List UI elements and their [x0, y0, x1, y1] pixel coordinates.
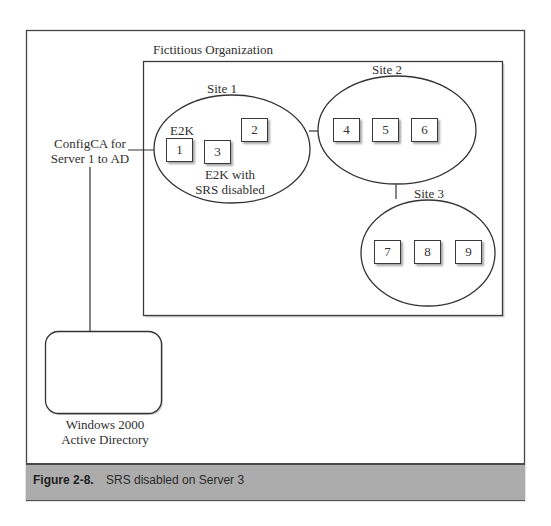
configca-label-line2: Server 1 to AD	[50, 151, 130, 166]
site3-label: Site 3	[414, 186, 444, 201]
server3-annotation-line1: E2K with	[190, 167, 270, 182]
ad-label-line2: Active Directory	[50, 432, 160, 447]
figure-caption: SRS disabled on Server 3	[106, 473, 244, 487]
server-4: 4	[333, 118, 360, 142]
figure-caption-band: Figure 2-8. SRS disabled on Server 3	[26, 463, 525, 501]
server1-annotation: E2K	[170, 123, 194, 138]
active-directory-box	[46, 332, 162, 414]
server-6: 6	[411, 118, 438, 142]
server-8: 8	[414, 240, 441, 264]
organization-label: Fictitious Organization	[153, 42, 273, 57]
server-2: 2	[241, 118, 268, 142]
server-3: 3	[204, 140, 231, 164]
figure-number: Figure 2-8.	[33, 473, 94, 487]
server-7: 7	[374, 240, 401, 264]
site1-label: Site 1	[207, 81, 237, 96]
configca-label-line1: ConfigCA for	[50, 136, 130, 151]
site2-label: Site 2	[372, 62, 402, 77]
server-9: 9	[455, 240, 482, 264]
server3-annotation-line2: SRS disabled	[185, 182, 275, 197]
server-5: 5	[372, 118, 399, 142]
server-1: 1	[166, 138, 193, 162]
ad-label-line1: Windows 2000	[50, 417, 160, 432]
